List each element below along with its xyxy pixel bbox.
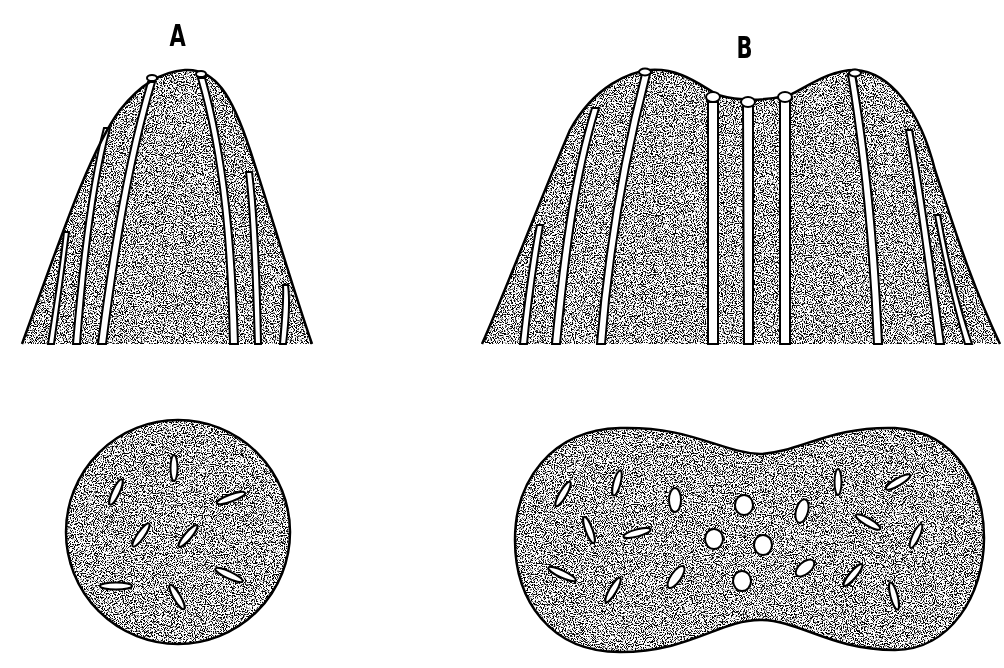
panel-a-cross-section (66, 420, 290, 644)
panel-b-cross-section (515, 428, 984, 652)
panel-b-longitudinal-view (482, 69, 1000, 345)
panel-a-longitudinal-view (22, 70, 312, 344)
